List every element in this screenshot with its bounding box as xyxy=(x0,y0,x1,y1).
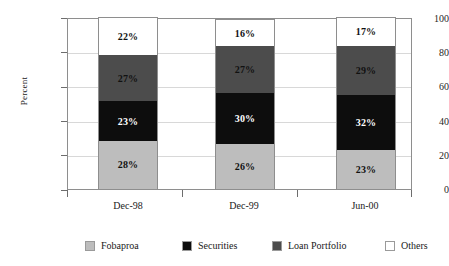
segment-value-label: 27% xyxy=(118,73,139,84)
legend-item-loan-portfolio[interactable]: Loan Portfolio xyxy=(272,238,347,254)
x-axis-label-dec-99: Dec-99 xyxy=(199,200,289,211)
segment-securities-dec-98[interactable]: 23% xyxy=(98,101,158,141)
segment-others-dec-98[interactable]: 22% xyxy=(98,17,158,55)
segment-value-label: 23% xyxy=(118,116,139,127)
x-tick-mark-2 xyxy=(297,190,298,197)
segment-value-label: 32% xyxy=(356,117,377,128)
segment-securities-jun-00[interactable]: 32% xyxy=(336,95,396,149)
segment-loan-portfolio-dec-99[interactable]: 27% xyxy=(215,46,275,92)
chart-legend: Fobaproa Securities Loan Portfolio Other… xyxy=(0,238,449,258)
y-axis-title: Percent xyxy=(19,61,29,121)
segment-value-label: 29% xyxy=(356,65,377,76)
segment-value-label: 17% xyxy=(356,26,377,37)
segment-value-label: 22% xyxy=(118,31,139,42)
segment-fobaproa-dec-98[interactable]: 28% xyxy=(98,141,158,189)
legend-label-fobaproa: Fobaproa xyxy=(101,241,139,251)
segment-value-label: 27% xyxy=(235,64,256,75)
segment-value-label: 23% xyxy=(356,164,377,175)
segment-loan-portfolio-jun-00[interactable]: 29% xyxy=(336,46,396,95)
segment-others-jun-00[interactable]: 17% xyxy=(336,17,396,46)
segment-value-label: 30% xyxy=(235,113,256,124)
legend-label-securities: Securities xyxy=(198,241,237,251)
bar-dec-98[interactable]: 22% 27% 23% 28% xyxy=(98,17,158,189)
x-tick-mark-0 xyxy=(67,190,68,197)
plot-area: 22% 27% 23% 28% 16% 27% 30% 26 xyxy=(67,18,412,190)
legend-swatch-securities-icon xyxy=(182,241,192,251)
bar-jun-00[interactable]: 17% 29% 32% 23% xyxy=(336,17,396,189)
segment-loan-portfolio-dec-98[interactable]: 27% xyxy=(98,55,158,101)
segment-securities-dec-99[interactable]: 30% xyxy=(215,93,275,145)
legend-label-others: Others xyxy=(401,241,428,251)
x-axis-label-jun-00: Jun-00 xyxy=(320,200,410,211)
x-axis-label-dec-98: Dec-98 xyxy=(83,200,173,211)
segment-value-label: 28% xyxy=(118,159,139,170)
bar-dec-99[interactable]: 16% 27% 30% 26% xyxy=(215,19,275,189)
legend-label-loan-portfolio: Loan Portfolio xyxy=(288,241,347,251)
legend-item-securities[interactable]: Securities xyxy=(182,238,237,254)
segment-others-dec-99[interactable]: 16% xyxy=(215,19,275,46)
segment-value-label: 16% xyxy=(235,28,256,39)
x-tick-mark-1 xyxy=(182,190,183,197)
legend-swatch-others-icon xyxy=(385,241,395,251)
stacked-bar-chart: Percent 100 80 60 40 20 0 22% 27% 23% 28… xyxy=(0,0,449,266)
legend-swatch-fobaproa-icon xyxy=(85,241,95,251)
segment-fobaproa-dec-99[interactable]: 26% xyxy=(215,144,275,189)
segment-value-label: 26% xyxy=(235,161,256,172)
legend-item-fobaproa[interactable]: Fobaproa xyxy=(85,238,139,254)
legend-swatch-loan-portfolio-icon xyxy=(272,241,282,251)
x-tick-mark-3 xyxy=(411,190,412,197)
legend-item-others[interactable]: Others xyxy=(385,238,428,254)
segment-fobaproa-jun-00[interactable]: 23% xyxy=(336,150,396,189)
